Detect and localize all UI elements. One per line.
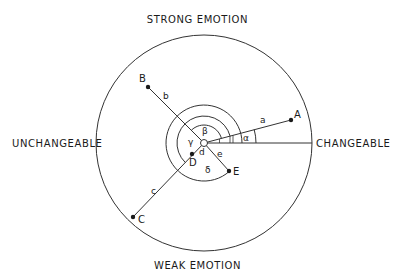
segment-e-label: e xyxy=(217,149,223,159)
delta-label: δ xyxy=(205,165,211,175)
segment-b-label: b xyxy=(163,91,169,101)
unchangeable-label: UNCHANGEABLE xyxy=(12,138,102,149)
point-d-label: D xyxy=(189,157,197,168)
point-e-label: E xyxy=(233,166,239,177)
point-d-dot xyxy=(190,152,194,156)
emotion-circle-diagram: A B C D E a b c d e α β γ δ STRONG EMOTI… xyxy=(0,0,395,278)
segment-c-label: c xyxy=(151,186,156,196)
gamma-label: γ xyxy=(188,137,194,147)
origin-circle xyxy=(201,140,208,147)
strong-emotion-label: STRONG EMOTION xyxy=(0,14,395,25)
point-c-label: C xyxy=(138,214,145,225)
point-a-label: A xyxy=(294,109,301,120)
segment-b-line xyxy=(148,87,204,143)
point-a-dot xyxy=(289,118,293,122)
alpha-arc xyxy=(254,130,256,144)
point-e-dot xyxy=(227,169,231,173)
segment-d-label: d xyxy=(199,147,205,157)
weak-emotion-label: WEAK EMOTION xyxy=(0,260,395,271)
alpha-label: α xyxy=(243,133,249,143)
changeable-label: CHANGEABLE xyxy=(316,138,390,149)
segment-a-label: a xyxy=(260,115,266,125)
point-b-dot xyxy=(146,85,150,89)
point-c-dot xyxy=(131,215,135,219)
beta-label: β xyxy=(202,126,208,136)
point-b-label: B xyxy=(139,73,146,84)
